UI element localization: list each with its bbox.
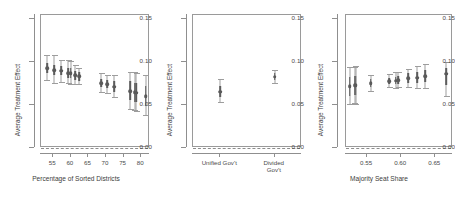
estimate-marker — [144, 94, 148, 98]
x-axis-tick — [123, 153, 124, 157]
x-axis-tick — [434, 153, 435, 157]
x-axis-tick-label: 0.60 — [394, 159, 406, 166]
x-axis-tick — [70, 153, 71, 157]
x-axis-tick — [274, 153, 275, 157]
interval-cap-upper — [59, 60, 65, 61]
y-axis-tick — [332, 147, 337, 148]
interval-cap-lower — [423, 88, 429, 89]
y-axis-tick-label: 0.05 — [427, 101, 455, 107]
estimate-marker — [444, 72, 448, 76]
x-axis-tick — [366, 153, 367, 157]
inner-interval-line — [445, 68, 447, 86]
interval-cap-lower — [387, 87, 393, 88]
y-axis-tick-label: 0.10 — [124, 58, 152, 64]
interval-cap-upper — [272, 70, 278, 71]
interval-cap-upper — [218, 79, 224, 80]
interval-cap-lower — [272, 83, 278, 84]
estimate-marker — [105, 82, 109, 86]
estimate-marker — [60, 69, 64, 73]
panel-majority-seat-share: Average Treatment Effect Majority Seat S… — [303, 0, 455, 199]
y-axis-tick — [29, 147, 34, 148]
panel2-y-axis-label: Average Treatment Effect — [166, 52, 173, 148]
interval-cap-upper — [112, 75, 118, 76]
estimate-marker — [77, 75, 81, 79]
interval-cap-lower — [415, 88, 421, 89]
panel3-y-axis-label: Average Treatment Effect — [317, 52, 324, 148]
panel2-plot-area — [192, 14, 301, 147]
y-axis-tick — [181, 104, 186, 105]
x-axis-tick — [140, 153, 141, 157]
panel1-y-axis-label: Average Treatment Effect — [14, 52, 21, 148]
panel3-x-axis-label: Majority Seat Share — [303, 175, 455, 182]
interval-cap-lower — [444, 96, 450, 97]
interval-cap-lower — [353, 104, 359, 105]
y-axis-tick-label: 0.00 — [124, 144, 152, 150]
estimate-marker — [396, 78, 400, 82]
y-axis-tick — [29, 61, 34, 62]
interval-cap-lower — [44, 80, 50, 81]
x-axis-tick — [87, 153, 88, 157]
panel1-x-axis-spine — [40, 153, 149, 154]
x-axis-tick-label: 70 — [102, 159, 109, 166]
estimate-marker — [415, 76, 419, 80]
interval-cap-upper — [353, 66, 359, 67]
x-axis-category-label: Unified Gov't — [202, 159, 237, 166]
y-axis-tick — [332, 61, 337, 62]
interval-cap-upper — [76, 68, 82, 69]
y-axis-tick — [181, 147, 186, 148]
estimate-marker — [369, 81, 373, 85]
interval-cap-lower — [406, 87, 412, 88]
estimate-marker — [53, 68, 57, 72]
y-axis-tick-label: 0.15 — [427, 15, 455, 21]
estimate-marker — [134, 91, 138, 95]
interval-cap-lower — [112, 97, 118, 98]
x-axis-tick-label: 65 — [84, 159, 91, 166]
panel-government-type: Average Treatment Effect 0.000.050.100.1… — [152, 0, 304, 199]
panel3-y-axis-spine — [337, 14, 338, 147]
y-axis-tick-label: 0.10 — [427, 58, 455, 64]
y-axis-tick-label: 0.15 — [124, 15, 152, 21]
interval-cap-upper — [52, 55, 58, 56]
interval-cap-lower — [347, 104, 353, 105]
interval-cap-upper — [143, 75, 149, 76]
x-axis-tick — [219, 153, 220, 157]
estimate-marker — [69, 72, 73, 76]
interval-cap-upper — [105, 75, 111, 76]
y-axis-tick-label: 0.15 — [276, 15, 304, 21]
interval-cap-lower — [218, 102, 224, 103]
panel3-plot-area — [345, 14, 452, 147]
panel2-y-axis-spine — [186, 14, 187, 147]
panel-sorted-districts: Average Treatment Effect Percentage of S… — [0, 0, 152, 199]
interval-cap-upper — [73, 65, 79, 66]
panel3-x-axis-spine — [345, 153, 452, 154]
x-axis-category-label: Divided Gov't — [259, 159, 289, 173]
y-axis-tick — [29, 104, 34, 105]
interval-cap-lower — [105, 93, 111, 94]
x-axis-tick-label: 55 — [49, 159, 56, 166]
interval-cap-upper — [68, 61, 74, 62]
y-axis-tick — [29, 18, 34, 19]
x-axis-tick — [52, 153, 53, 157]
estimate-marker — [99, 81, 103, 85]
y-axis-tick — [332, 18, 337, 19]
interval-cap-upper — [387, 74, 393, 75]
interval-cap-upper — [396, 72, 402, 73]
estimate-marker — [423, 75, 427, 79]
coefficient-plot-figure: Average Treatment Effect Percentage of S… — [0, 0, 455, 199]
x-axis-tick-label: 75 — [119, 159, 126, 166]
interval-cap-upper — [415, 66, 421, 67]
estimate-marker — [45, 66, 49, 70]
y-axis-tick-label: 0.05 — [276, 101, 304, 107]
interval-cap-lower — [134, 111, 140, 112]
y-axis-tick — [181, 18, 186, 19]
estimate-marker — [112, 85, 116, 89]
interval-cap-lower — [59, 82, 65, 83]
estimate-marker — [128, 89, 132, 93]
y-axis-tick — [181, 61, 186, 62]
estimate-marker — [387, 79, 391, 83]
interval-cap-upper — [368, 75, 374, 76]
estimate-marker — [218, 90, 222, 94]
x-axis-tick-label: 0.65 — [428, 159, 440, 166]
interval-cap-upper — [44, 55, 50, 56]
estimate-marker — [273, 75, 277, 79]
